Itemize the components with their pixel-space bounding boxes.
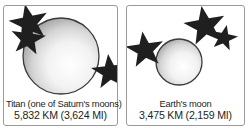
panel-earths-moon: Earth's moon 3,475 KM (2,159 MI) (126, 5, 245, 126)
figure-root: Titan (one of Saturn's moons) 5,832 KM (… (0, 0, 248, 134)
titan-illustration (4, 6, 117, 98)
panel-titan: Titan (one of Saturn's moons) 5,832 KM (… (3, 5, 118, 126)
star-top-large-icon (196, 17, 213, 33)
titan-art-svg (4, 6, 117, 98)
earths-moon-illustration (127, 6, 244, 98)
earths-moon-caption-diameter: 3,475 KM (2,159 MI) (129, 110, 242, 121)
star-top-small-icon (218, 32, 229, 43)
star-left-icon (137, 42, 152, 56)
star-right-icon (103, 65, 117, 78)
titan-caption-diameter: 5,832 KM (3,624 MI) (6, 110, 115, 121)
earths-moon-caption: Earth's moon 3,475 KM (2,159 MI) (129, 99, 242, 121)
titan-caption: Titan (one of Saturn's moons) 5,832 KM (… (6, 99, 115, 121)
star-upper-left-small-icon (21, 32, 35, 45)
earths-moon-art-svg (127, 6, 244, 98)
moon-sphere (156, 39, 202, 85)
